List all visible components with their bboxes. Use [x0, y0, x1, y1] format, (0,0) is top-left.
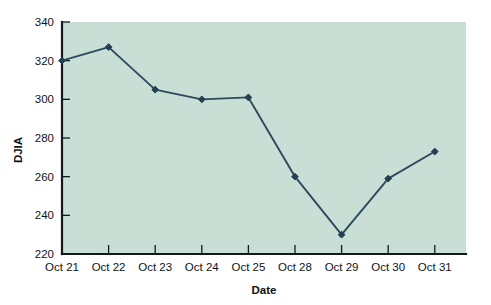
- x-axis-title: Date: [252, 284, 277, 296]
- y-tick-label: 240: [35, 209, 54, 221]
- y-axis-title: DJIA: [12, 137, 24, 163]
- y-tick-label: 320: [35, 55, 54, 67]
- x-tick-label: Oct 22: [92, 261, 126, 273]
- y-tick-label: 260: [35, 171, 54, 183]
- x-tick-label: Oct 31: [418, 261, 452, 273]
- x-tick-label: Oct 21: [45, 261, 79, 273]
- y-tick-label: 300: [35, 93, 54, 105]
- plot-area-background: [62, 22, 466, 254]
- y-tick-label: 280: [35, 132, 54, 144]
- x-tick-label: Oct 28: [278, 261, 312, 273]
- x-tick-label: Oct 29: [325, 261, 359, 273]
- y-tick-label: 340: [35, 16, 54, 28]
- chart-canvas: 220240260280300320340 Oct 21Oct 22Oct 23…: [0, 0, 491, 305]
- x-tick-label: Oct 23: [138, 261, 172, 273]
- y-tick-label: 220: [35, 248, 54, 260]
- djia-line-chart: 220240260280300320340 Oct 21Oct 22Oct 23…: [0, 0, 491, 305]
- x-tick-label: Oct 30: [371, 261, 405, 273]
- x-tick-label: Oct 24: [185, 261, 219, 273]
- x-tick-label: Oct 25: [231, 261, 265, 273]
- x-axis-tick-labels: Oct 21Oct 22Oct 23Oct 24Oct 25Oct 28Oct …: [45, 261, 452, 273]
